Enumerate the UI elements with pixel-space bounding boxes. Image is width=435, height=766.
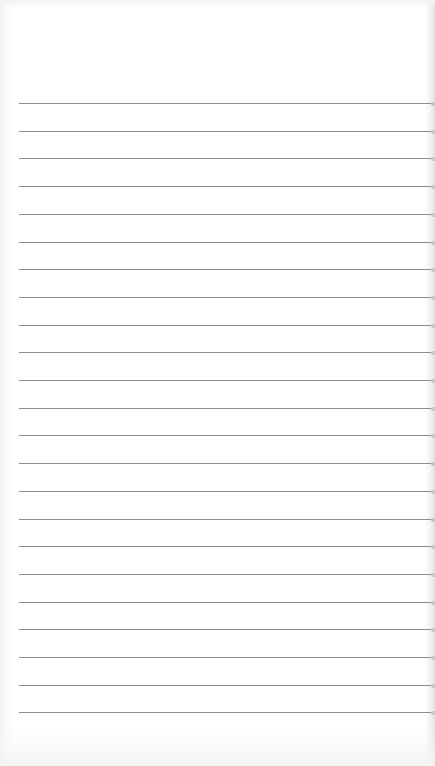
line-edge-mark — [431, 656, 435, 660]
line-edge-mark — [431, 628, 435, 632]
line-edge-mark — [431, 268, 435, 272]
ruled-line — [19, 657, 432, 658]
ruled-line — [19, 242, 432, 243]
ruled-line — [19, 158, 432, 159]
ruled-line — [19, 685, 432, 686]
ruled-line — [19, 214, 432, 215]
lined-paper-sheet — [0, 0, 435, 766]
line-edge-mark — [431, 434, 435, 438]
line-edge-mark — [431, 351, 435, 355]
line-edge-mark — [431, 711, 435, 715]
ruled-line — [19, 712, 432, 713]
ruled-line — [19, 297, 432, 298]
line-edge-mark — [431, 601, 435, 605]
bottom-edge-shadow — [0, 726, 435, 766]
line-edge-mark — [431, 573, 435, 577]
ruled-line — [19, 463, 432, 464]
line-edge-mark — [431, 102, 435, 106]
line-edge-mark — [431, 545, 435, 549]
line-edge-mark — [431, 130, 435, 134]
ruled-line — [19, 186, 432, 187]
line-edge-mark — [431, 185, 435, 189]
line-edge-mark — [431, 213, 435, 217]
ruled-line — [19, 519, 432, 520]
ruled-line — [19, 352, 432, 353]
line-edge-mark — [431, 407, 435, 411]
ruled-line — [19, 103, 432, 104]
line-edge-mark — [431, 490, 435, 494]
line-edge-mark — [431, 518, 435, 522]
ruled-line — [19, 602, 432, 603]
line-edge-mark — [431, 379, 435, 383]
ruled-line — [19, 325, 432, 326]
line-edge-mark — [431, 462, 435, 466]
ruled-line — [19, 408, 432, 409]
line-edge-mark — [431, 157, 435, 161]
line-edge-mark — [431, 324, 435, 328]
ruled-line — [19, 629, 432, 630]
ruled-line — [19, 380, 432, 381]
ruled-line — [19, 269, 432, 270]
ruled-line — [19, 435, 432, 436]
line-edge-mark — [431, 241, 435, 245]
ruled-line — [19, 491, 432, 492]
ruled-line — [19, 131, 432, 132]
ruled-line — [19, 546, 432, 547]
line-edge-mark — [431, 684, 435, 688]
top-edge-shadow — [0, 0, 435, 8]
ruled-line — [19, 574, 432, 575]
line-edge-mark — [431, 296, 435, 300]
